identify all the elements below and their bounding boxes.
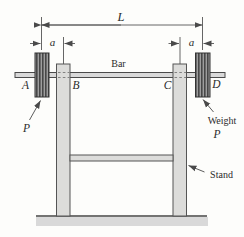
weight-left (35, 53, 49, 97)
leader-arrow-weight-right (203, 100, 214, 113)
stand-upright-right (173, 64, 187, 216)
stand-upright-left (57, 64, 71, 216)
label-offset-left: a (50, 36, 56, 48)
leader-arrow-stand (189, 166, 205, 173)
stand-crossbar (70, 155, 173, 161)
label-point-d: D (211, 78, 221, 90)
weight-right (196, 53, 211, 97)
label-point-a: A (21, 79, 30, 91)
label-load-left: P (22, 122, 30, 134)
label-offset-right: a (189, 36, 195, 48)
label-point-b: B (72, 79, 79, 91)
label-point-c: C (164, 79, 172, 91)
label-stand: Stand (210, 169, 233, 180)
extension-lines (42, 17, 203, 64)
label-weight: Weight (208, 115, 237, 126)
label-bar: Bar (111, 58, 126, 69)
ground-shadow (36, 217, 208, 226)
diagram-canvas: L a a Bar A B C D P Weight P Stand (0, 0, 244, 237)
label-total-length: L (117, 10, 125, 24)
leader-arrow-load-left (30, 101, 41, 121)
figure-barbell-on-stand: L a a Bar A B C D P Weight P Stand (0, 0, 244, 237)
label-load-right: P (212, 128, 220, 140)
